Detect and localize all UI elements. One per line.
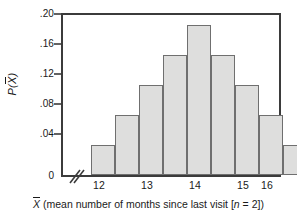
y-axis-label-open: ( — [6, 84, 18, 88]
x-axis-tick-labels: 12 13 14 15 16 — [0, 179, 297, 193]
y-tick-label-08: .08 — [28, 99, 54, 109]
y-tick-label-16: .16 — [28, 39, 54, 49]
bar-13.75 — [187, 25, 211, 175]
bar-14.25 — [211, 55, 235, 175]
y-axis-label-p: P — [6, 88, 18, 96]
bar-12.25 — [115, 115, 139, 175]
y-axis-label: P(X) — [6, 56, 18, 112]
bar-11.75 — [91, 145, 115, 175]
bar-15.25 — [259, 115, 283, 175]
x-tick-label-14: 14 — [183, 179, 207, 191]
bar-15.75 — [283, 145, 297, 175]
y-axis-label-xbar: X — [6, 76, 18, 84]
y-tick-label-04: .04 — [28, 129, 54, 139]
x-tick-label-15: 15 — [231, 179, 255, 191]
x-tick-label-13: 13 — [135, 179, 159, 191]
bar-14.75 — [235, 85, 259, 175]
x-tick-label-16: 16 — [255, 179, 279, 191]
histogram-bars — [63, 15, 279, 175]
x-axis-label: X (mean number of months since last visi… — [0, 198, 297, 211]
histogram-figure: P(X) .20 .16 .12 .08 .04 0 — [0, 0, 297, 223]
bar-12.75 — [139, 85, 163, 175]
y-tick-label-20: .20 — [28, 9, 54, 19]
x-axis-label-tail: = 2]) — [240, 198, 264, 210]
y-tick-label-12: .12 — [28, 69, 54, 79]
bar-13.25 — [163, 55, 187, 175]
x-tick-label-12: 12 — [87, 179, 111, 191]
x-axis-label-rest: (mean number of months since last visit … — [40, 198, 234, 210]
x-axis-label-xbar: X — [33, 198, 40, 211]
plot-area — [61, 13, 281, 177]
